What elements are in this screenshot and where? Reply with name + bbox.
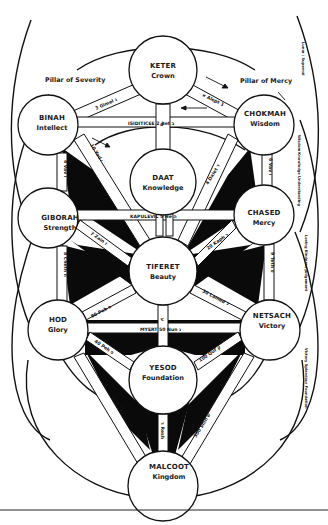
malcoot-meaning: Kingdom xyxy=(153,473,186,481)
chased-meaning: Mercy xyxy=(253,219,276,227)
binah-name: BINAH xyxy=(39,114,65,122)
sephira-keter xyxy=(129,36,197,104)
pillar-of-severity-label: Pillar of Severity xyxy=(45,76,106,84)
path-label-keter-daat: ם xyxy=(160,122,163,127)
side-caption-top: Lunar / Supernal xyxy=(301,42,305,76)
tiferet-name: TIFERET xyxy=(146,263,179,271)
netsach-name: NETSACH xyxy=(253,312,291,320)
chokmah-meaning: Wisdom xyxy=(250,120,280,128)
giborah-meaning: Strength xyxy=(44,224,77,232)
keter-meaning: Crown xyxy=(151,72,175,80)
path-label-teth: 9 Teth ט xyxy=(270,252,275,273)
giborah-name: GIBORAH xyxy=(41,214,79,222)
side-caption-middle: Loving Kindness Judgement xyxy=(304,235,308,292)
tree-of-life-diagram: 3 Gimel ג א Alept 1 ISIDITICEE 2 Bet ב ם… xyxy=(0,0,328,525)
chased-name: CHASED xyxy=(247,209,280,217)
yesod-meaning: Foundation xyxy=(142,374,184,382)
diagram-canvas: 3 Gimel ג א Alept 1 ISIDITICEE 2 Bet ב ם… xyxy=(0,0,328,525)
hod-name: HOD xyxy=(49,316,67,324)
malcoot-name: MALCOOT xyxy=(149,463,189,471)
sephira-daat xyxy=(130,149,196,215)
hod-meaning: Glory xyxy=(48,326,68,334)
path-label-chokmah-chased: 6 Vav ו xyxy=(268,158,273,176)
yesod-name: YESOD xyxy=(148,364,177,372)
path-label-nun: MYERT 50 Nun נ xyxy=(140,327,181,332)
daat-meaning: Knowledge xyxy=(142,184,184,192)
tiferet-meaning: Beauty xyxy=(150,273,177,281)
path-label-bet: ISIDITICEE 2 Bet ב xyxy=(128,121,175,126)
path-label-tiferet-yesod: ע xyxy=(160,318,165,321)
path-label-binah-giborah: 4 Vav ו xyxy=(63,160,68,178)
daat-name: DAAT xyxy=(152,174,174,182)
chokmah-name: CHOKMAH xyxy=(244,110,286,118)
pillar-of-mercy-label: Pillar of Mercy xyxy=(240,77,293,85)
side-caption-upper: Wisdom Knowledge Understanding xyxy=(297,135,301,206)
path-label-cheth: 8 Cheth ח xyxy=(63,252,68,277)
side-caption-lower: Victory Splendour Foundation xyxy=(304,348,308,409)
sephira-netsach xyxy=(240,300,300,360)
sephira-tiferet xyxy=(129,237,197,305)
binah-meaning: Intellect xyxy=(37,124,68,132)
keter-name: KETER xyxy=(150,62,177,70)
netsach-meaning: Victory xyxy=(259,322,286,330)
path-label-resh: ר Resh xyxy=(160,422,165,439)
